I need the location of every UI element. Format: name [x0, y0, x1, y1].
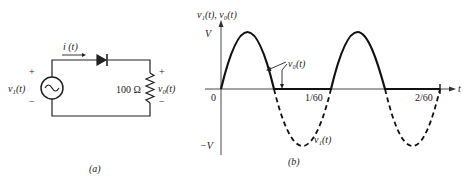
x-axis-label: t — [458, 83, 461, 94]
y-axis-arrow-icon — [219, 20, 224, 27]
v0-annotation: v₀(t) — [288, 58, 306, 70]
y-tick-top: V — [205, 28, 213, 39]
source-plus: + — [29, 66, 35, 77]
y-tick-bottom: −V — [200, 140, 215, 151]
v0-curve — [221, 32, 440, 89]
x-tick-1: 1/60 — [305, 92, 323, 103]
source-minus: − — [29, 96, 35, 107]
wire-top-right — [108, 60, 150, 73]
current-label: i (t) — [63, 41, 78, 53]
diode-icon — [97, 55, 106, 65]
sine-glyph — [45, 85, 59, 91]
figure: i (t) + − v1(t) 100 Ω + − v0(t) (a) v₁(t… — [0, 0, 475, 185]
output-minus: − — [159, 96, 165, 107]
v1-annotation: v₁(t) — [314, 134, 332, 146]
caption-b: (b) — [288, 156, 300, 168]
output-label: v0(t) — [158, 83, 176, 96]
caption-a: (a) — [89, 163, 101, 175]
x-tick-2: 2/60 — [415, 92, 433, 103]
wire-bottom — [52, 99, 150, 116]
wire-top — [52, 60, 97, 77]
origin-label: 0 — [211, 92, 216, 103]
graph: v₁(t), v₀(t) V −V 0 1/60 2/60 t v₀(t) v₁… — [197, 9, 461, 168]
x-axis-arrow-icon — [449, 87, 456, 92]
resistor-icon — [146, 73, 154, 103]
output-plus: + — [159, 66, 165, 77]
circuit-labels: i (t) + − v1(t) 100 Ω + − v0(t) (a) — [8, 41, 176, 175]
resistor-label: 100 Ω — [116, 84, 141, 95]
y-axis-label: v₁(t), v₀(t) — [197, 9, 237, 21]
source-label: v1(t) — [8, 83, 26, 96]
